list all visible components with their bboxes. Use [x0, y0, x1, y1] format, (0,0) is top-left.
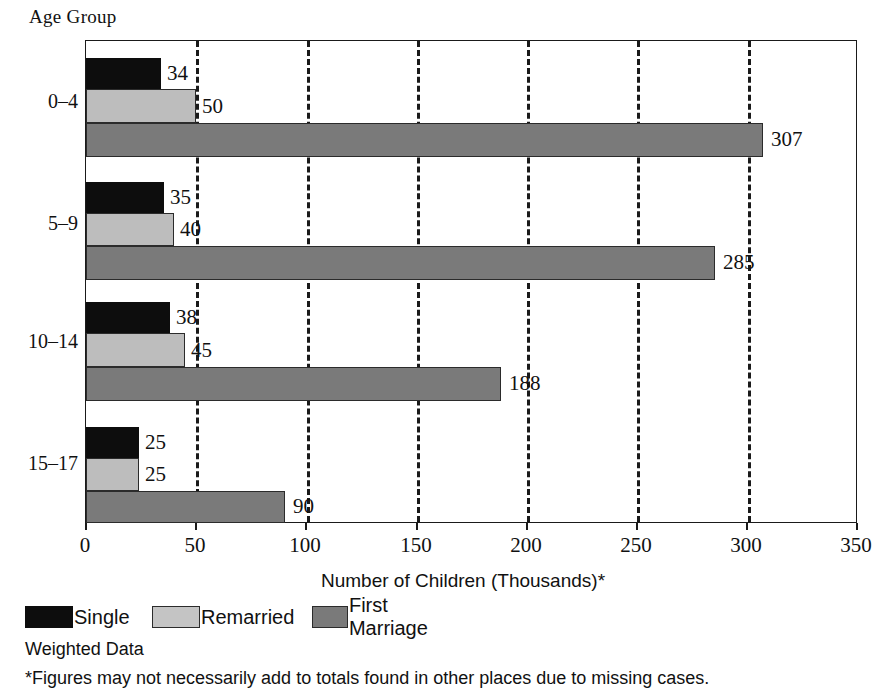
bar-value-label: 35	[170, 185, 191, 210]
bar-value-label: 50	[202, 94, 223, 119]
x-axis-title: Number of Children (Thousands)*	[0, 570, 886, 592]
legend-label: Remarried	[201, 606, 294, 629]
x-tick-label: 350	[840, 533, 872, 558]
y-category-label: 15–17	[0, 452, 78, 475]
weighted-data-note: Weighted Data	[25, 639, 144, 660]
legend-item-first-marriage: First Marriage	[312, 604, 440, 630]
bar-value-label: 285	[723, 250, 755, 275]
legend-label: First Marriage	[349, 594, 440, 640]
x-tick	[526, 523, 528, 530]
bar-value-label: 307	[771, 127, 803, 152]
x-tick	[305, 523, 307, 530]
bar-remarried-15-17	[86, 458, 139, 491]
x-tick-label: 50	[185, 533, 206, 558]
footnote: *Figures may not necessarily add to tota…	[25, 668, 709, 689]
x-tick	[85, 523, 87, 530]
gridline-200	[527, 41, 530, 522]
bar-value-label: 25	[145, 462, 166, 487]
legend-swatch-single-icon	[25, 606, 73, 628]
x-tick-label: 200	[510, 533, 542, 558]
bar-first-marriage-5-9	[86, 246, 715, 280]
legend-item-single: Single	[25, 604, 130, 630]
bar-value-label: 25	[145, 430, 166, 455]
y-category-label: 0–4	[0, 90, 78, 113]
bar-value-label: 40	[180, 217, 201, 242]
gridline-300	[748, 41, 751, 522]
gridline-100	[307, 41, 310, 522]
bar-first-marriage-10-14	[86, 367, 501, 401]
bar-value-label: 90	[293, 494, 314, 519]
plot-area: 34 50 307 35 40 285 38 45 188 25 25 90	[85, 40, 857, 523]
bar-remarried-10-14	[86, 333, 185, 367]
legend-swatch-first-marriage-icon	[312, 606, 348, 628]
bar-chart: Age Group 0–4 5–9 10–14 15–17 34 50 307 …	[0, 0, 886, 696]
y-category-label: 5–9	[0, 212, 78, 235]
bar-single-15-17	[86, 427, 139, 458]
gridline-50	[196, 41, 199, 522]
gridline-150	[417, 41, 420, 522]
gridline-250	[637, 41, 640, 522]
x-tick-label: 150	[400, 533, 432, 558]
x-axis-title-text: Number of Children (Thousands)*	[281, 570, 605, 592]
x-tick-label: 300	[730, 533, 762, 558]
x-tick-label: 100	[289, 533, 321, 558]
x-tick	[856, 523, 858, 530]
bar-single-5-9	[86, 182, 164, 213]
x-tick	[746, 523, 748, 530]
bar-value-label: 45	[191, 338, 212, 363]
bar-remarried-0-4	[86, 89, 196, 123]
legend-swatch-remarried-icon	[152, 606, 200, 628]
legend-label: Single	[74, 606, 130, 629]
bar-remarried-5-9	[86, 213, 174, 246]
bar-first-marriage-0-4	[86, 123, 763, 157]
y-axis-title: Age Group	[29, 6, 117, 28]
x-tick	[636, 523, 638, 530]
bar-first-marriage-15-17	[86, 491, 285, 523]
x-tick-label: 0	[80, 533, 91, 558]
bar-value-label: 34	[167, 61, 188, 86]
legend-item-remarried: Remarried	[152, 604, 294, 630]
bar-single-0-4	[86, 58, 161, 89]
bar-single-10-14	[86, 302, 170, 333]
x-tick	[416, 523, 418, 530]
bar-value-label: 38	[176, 305, 197, 330]
x-tick-label: 250	[620, 533, 652, 558]
bar-value-label: 188	[509, 371, 541, 396]
y-category-label: 10–14	[0, 330, 78, 353]
x-tick	[195, 523, 197, 530]
